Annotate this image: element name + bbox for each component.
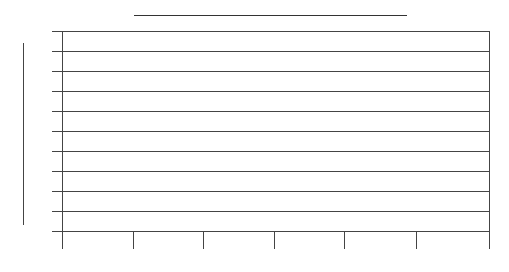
chart-plot	[0, 0, 509, 272]
